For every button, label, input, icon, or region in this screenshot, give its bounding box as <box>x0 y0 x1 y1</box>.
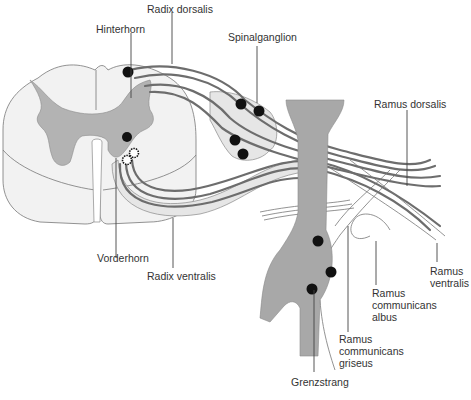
label-grenzstrang: Grenzstrang <box>291 376 349 388</box>
label-hinterhorn: Hinterhorn <box>96 23 145 35</box>
label-vorderhorn: Vorderhorn <box>97 252 149 264</box>
label-spinalganglion: Spinalganglion <box>228 31 297 43</box>
label-ramus-communicans-albus: Ramus communicans albus <box>372 287 437 323</box>
spinal-cord <box>3 65 196 224</box>
label-ramus-dorsalis: Ramus dorsalis <box>374 98 446 110</box>
label-radix-dorsalis: Radix dorsalis <box>147 3 213 15</box>
label-radix-ventralis: Radix ventralis <box>147 270 216 282</box>
label-ramus-communicans-griseus: Ramus communicans griseus <box>339 333 404 369</box>
label-ramus-ventralis: Ramus ventralis <box>430 265 469 289</box>
